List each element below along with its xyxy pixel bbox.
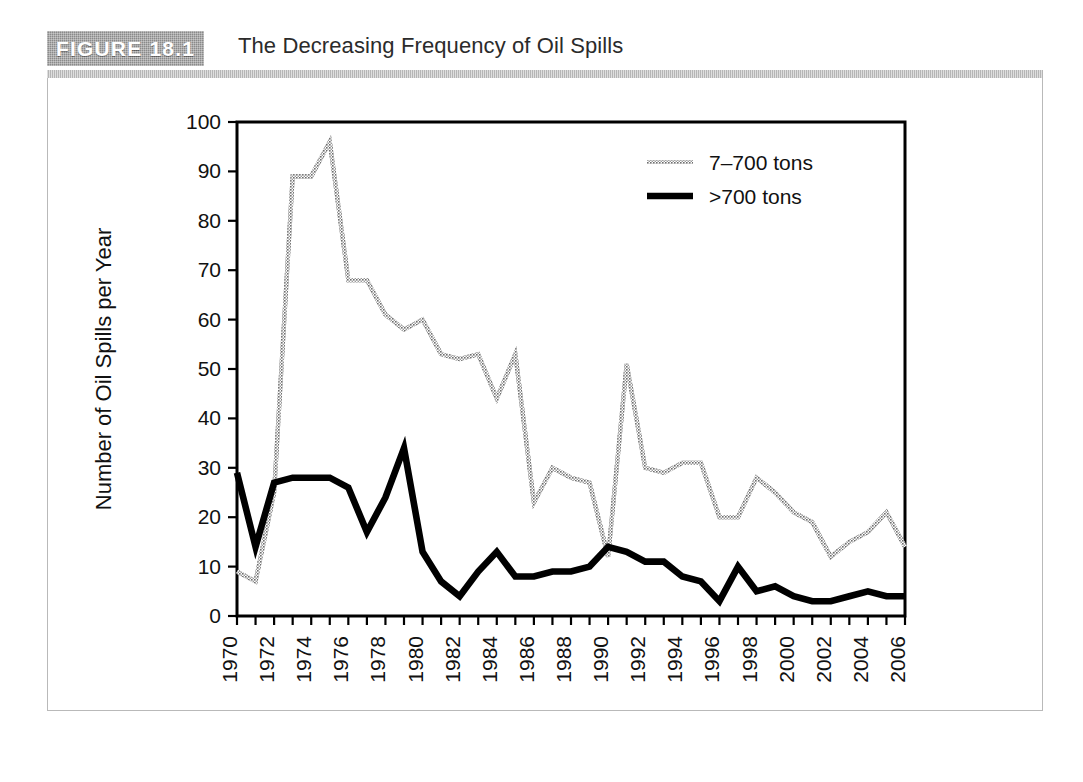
y-axis-tick-label: 90 [198, 159, 221, 182]
x-axis-tick-label: 1970 [218, 636, 241, 683]
x-axis-tick-label: 1976 [329, 636, 352, 683]
x-axis-tick-label: 1978 [366, 636, 389, 683]
figure-number-badge: FIGURE 18.1 [47, 31, 204, 66]
y-axis-title: Number of Oil Spills per Year [91, 228, 116, 510]
legend-label: >700 tons [709, 185, 802, 208]
x-axis-tick-label: 2000 [775, 636, 798, 683]
series-line-over-700-tons [237, 448, 905, 601]
x-axis-tick-label: 1998 [738, 636, 761, 683]
x-axis-tick-label: 2006 [886, 636, 909, 683]
x-axis-tick-label: 1984 [478, 636, 501, 683]
figure-number-label: FIGURE 18.1 [56, 37, 195, 61]
figure-caption: The Decreasing Frequency of Oil Spills [238, 33, 623, 59]
line-chart: 0102030405060708090100197019721974197619… [47, 78, 1043, 712]
y-axis-tick-label: 20 [198, 505, 221, 528]
y-axis-tick-label: 50 [198, 357, 221, 380]
x-axis-tick-label: 1986 [515, 636, 538, 683]
x-axis-tick-label: 2004 [849, 636, 872, 683]
y-axis-tick-label: 0 [209, 604, 221, 627]
series-line-7-700-tons-texture [237, 142, 905, 582]
x-axis-tick-label: 1994 [663, 636, 686, 683]
x-axis-tick-label: 1988 [552, 636, 575, 683]
y-axis-tick-label: 60 [198, 308, 221, 331]
figure-header-rule [47, 70, 1043, 78]
x-axis-tick-label: 1972 [255, 636, 278, 683]
y-axis-tick-label: 70 [198, 258, 221, 281]
legend-label: 7–700 tons [709, 151, 813, 174]
y-axis-tick-label: 40 [198, 406, 221, 429]
y-axis-tick-label: 30 [198, 456, 221, 479]
x-axis-tick-label: 1982 [441, 636, 464, 683]
x-axis-tick-label: 1992 [626, 636, 649, 683]
x-axis-tick-label: 1974 [292, 636, 315, 683]
x-axis-tick-label: 1980 [404, 636, 427, 683]
x-axis-tick-label: 1990 [589, 636, 612, 683]
x-axis-tick-label: 1996 [700, 636, 723, 683]
y-axis-tick-label: 10 [198, 555, 221, 578]
y-axis-tick-label: 80 [198, 209, 221, 232]
figure-page: FIGURE 18.1 The Decreasing Frequency of … [0, 0, 1083, 782]
x-axis-tick-label: 2002 [812, 636, 835, 683]
chart-container: 0102030405060708090100197019721974197619… [47, 78, 1043, 712]
y-axis-tick-label: 100 [186, 110, 221, 133]
